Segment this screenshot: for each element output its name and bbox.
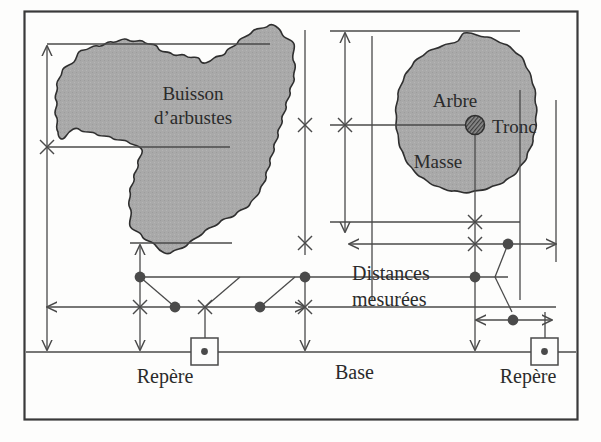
shrub-label-line2: d’arbustes	[154, 107, 232, 128]
station-dot	[255, 302, 266, 313]
trunk-label: Tronc	[492, 116, 537, 137]
benchmark-right	[531, 338, 558, 365]
tree-mass-label: Masse	[414, 151, 463, 172]
benchmark-right-label: Repère	[500, 365, 557, 388]
benchmark-center-dot	[541, 348, 548, 355]
diagram-canvas: Buisson d’arbustes Arbre Masse	[0, 0, 601, 442]
distances-label-line2: mesurées	[352, 288, 427, 310]
benchmark-center-dot	[201, 348, 208, 355]
station-dot	[503, 239, 514, 250]
shrub-label-line1: Buisson	[162, 83, 224, 104]
station-dot	[300, 272, 311, 283]
station-dot	[470, 272, 481, 283]
station-dot	[135, 272, 146, 283]
survey-diagram: Buisson d’arbustes Arbre Masse	[0, 0, 601, 442]
station-dot	[170, 302, 181, 313]
distances-label-line1: Distances	[352, 262, 430, 284]
tree-trunk: Tronc	[466, 116, 537, 138]
benchmark-left	[191, 338, 218, 365]
trunk-symbol	[466, 116, 485, 135]
base-label: Base	[335, 361, 374, 383]
station-dot	[508, 315, 519, 326]
tree-label: Arbre	[433, 90, 477, 111]
benchmark-left-label: Repère	[137, 365, 194, 388]
